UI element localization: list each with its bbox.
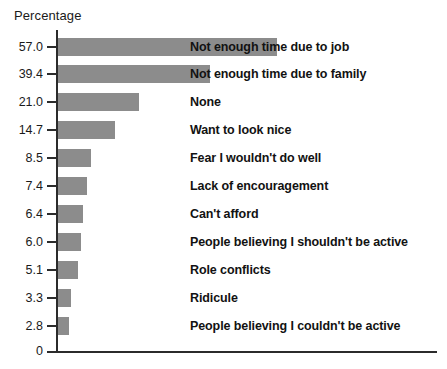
bar bbox=[58, 233, 81, 251]
zero-tick-mark bbox=[47, 351, 56, 353]
bar-label: Ridicule bbox=[190, 289, 238, 307]
table-row: 3.3 Ridicule bbox=[0, 289, 447, 316]
bar bbox=[58, 93, 139, 111]
tick-label: 7.4 bbox=[0, 177, 43, 195]
tick-label: 6.4 bbox=[0, 205, 43, 223]
bar-label: Role conflicts bbox=[190, 261, 271, 279]
bar-label: People believing I shouldn't be active bbox=[190, 233, 408, 251]
tick-mark bbox=[47, 46, 56, 48]
table-row: 6.0 People believing I shouldn't be acti… bbox=[0, 233, 447, 260]
bar-label: None bbox=[190, 93, 221, 111]
tick-mark bbox=[47, 185, 56, 187]
bar bbox=[58, 65, 210, 83]
tick-mark bbox=[47, 73, 56, 75]
bar bbox=[58, 177, 87, 195]
plot-area: 57.0 Not enough time due to job 39.4 Not… bbox=[0, 0, 447, 369]
table-row: 2.8 People believing I couldn't be activ… bbox=[0, 317, 447, 344]
table-row: 57.0 Not enough time due to job bbox=[0, 38, 447, 65]
table-row: 5.1 Role conflicts bbox=[0, 261, 447, 288]
zero-tick-label: 0 bbox=[0, 343, 43, 359]
tick-label: 3.3 bbox=[0, 289, 43, 307]
bar bbox=[58, 149, 91, 167]
tick-mark bbox=[47, 325, 56, 327]
tick-label: 57.0 bbox=[0, 38, 43, 56]
tick-label: 39.4 bbox=[0, 65, 43, 83]
bar bbox=[58, 205, 83, 223]
tick-label: 2.8 bbox=[0, 317, 43, 335]
tick-label: 6.0 bbox=[0, 233, 43, 251]
table-row: 8.5 Fear I wouldn't do well bbox=[0, 149, 447, 176]
tick-mark bbox=[47, 241, 56, 243]
bar-label: Fear I wouldn't do well bbox=[190, 149, 321, 167]
bar bbox=[58, 289, 71, 307]
tick-mark bbox=[47, 297, 56, 299]
tick-mark bbox=[47, 269, 56, 271]
bar-label: Can't afford bbox=[190, 205, 258, 223]
table-row: 7.4 Lack of encouragement bbox=[0, 177, 447, 204]
bar-label: Want to look nice bbox=[190, 121, 291, 139]
x-axis-line bbox=[56, 351, 437, 353]
bar-label: Not enough time due to job bbox=[190, 38, 349, 56]
bar bbox=[58, 317, 69, 335]
bar-label: Not enough time due to family bbox=[190, 65, 366, 83]
tick-mark bbox=[47, 101, 56, 103]
table-row: 21.0 None bbox=[0, 93, 447, 120]
tick-mark bbox=[47, 213, 56, 215]
percentage-bar-chart: Percentage 57.0 Not enough time due to j… bbox=[0, 0, 447, 369]
tick-label: 5.1 bbox=[0, 261, 43, 279]
table-row: 14.7 Want to look nice bbox=[0, 121, 447, 148]
bar bbox=[58, 121, 115, 139]
table-row: 39.4 Not enough time due to family bbox=[0, 65, 447, 92]
tick-label: 14.7 bbox=[0, 121, 43, 139]
tick-label: 21.0 bbox=[0, 93, 43, 111]
tick-mark bbox=[47, 129, 56, 131]
bar bbox=[58, 261, 78, 279]
tick-mark bbox=[47, 157, 56, 159]
bar-label: Lack of encouragement bbox=[190, 177, 328, 195]
table-row: 6.4 Can't afford bbox=[0, 205, 447, 232]
tick-label: 8.5 bbox=[0, 149, 43, 167]
bar-label: People believing I couldn't be active bbox=[190, 317, 400, 335]
